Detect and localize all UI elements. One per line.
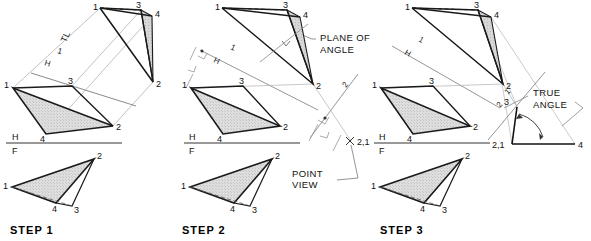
proj-aux-4b: [491, 17, 575, 144]
leader-point-view: [337, 145, 358, 180]
figure-canvas: 1 3 4 2 TL 1 H 1 3 2 4 H F: [0, 0, 591, 241]
front-label-4: 4: [52, 204, 57, 214]
point-view-line1: POINT: [292, 168, 323, 179]
top-label-1: 1: [372, 80, 377, 90]
step2-label: STEP 2: [182, 224, 226, 236]
fold-label-F: F: [379, 146, 385, 156]
plane-of-angle-line2: ANGLE: [320, 44, 354, 55]
top-label-1: 1: [4, 80, 9, 90]
front-label-4: 4: [230, 204, 235, 214]
point-view-line2: VIEW: [292, 179, 318, 190]
step2-front-view: 1 2 3 4: [181, 151, 280, 215]
fold-label-H-aux: H: [43, 58, 51, 68]
step3-hf-fold: H F: [374, 132, 490, 156]
true-angle-label-3: 3: [504, 97, 509, 107]
tick-arrow-b: [186, 74, 193, 88]
step1-hf-fold: H F: [6, 132, 122, 156]
front-label-1: 1: [3, 181, 8, 191]
pv-projector: [313, 84, 351, 141]
aux-label-3: 3: [474, 0, 479, 10]
top-label-2: 2: [473, 122, 478, 132]
step3-auxiliary-view: 1 3 4 2: [405, 0, 511, 91]
fold-label-1: 1: [56, 46, 63, 56]
step1-group: 1 3 4 2 TL 1 H 1 3 2 4 H F: [3, 0, 161, 236]
proj-line-3: [72, 10, 141, 86]
step3-group: 1 3 4 2 1 H 1 2 3 4 2,1 TRUE ANGLE 1 3 2: [371, 0, 583, 236]
perp-tick-a: [198, 53, 207, 59]
step3-front-view: 1 2 3 4: [371, 151, 470, 215]
pv-origin-dot: [323, 116, 326, 119]
plane-of-angle-line1: PLANE OF: [320, 32, 370, 43]
step1-front-view: 1 2 3 4: [3, 151, 102, 215]
true-angle-label-4: 4: [578, 140, 583, 150]
proj-line-1: [13, 8, 100, 88]
fold-label-F: F: [189, 146, 195, 156]
fold-label-1: 1: [229, 43, 237, 53]
fold-origin-dot: [201, 50, 204, 53]
front-label-3: 3: [442, 205, 447, 215]
fold-label-F: F: [12, 146, 18, 156]
aux-label-4: 4: [494, 10, 499, 20]
step1-label: STEP 1: [10, 224, 54, 236]
front-label-3: 3: [252, 205, 257, 215]
fold-label-1: 1: [417, 35, 426, 45]
front-plane-shaded: [190, 159, 272, 203]
aux-label-4: 4: [303, 10, 308, 20]
step1-auxiliary-view: 1 3 4 2: [93, 0, 161, 89]
true-angle-line2: ANGLE: [533, 99, 567, 110]
step1-top-view: 1 3 2 4: [4, 76, 121, 144]
fold-label-H: H: [189, 132, 196, 142]
step2-group: 1 3 4 2 1 H 2 PLANE OF ANGLE POINT VIEW …: [181, 0, 370, 236]
true-length-label: TL: [59, 30, 72, 44]
top-label-3: 3: [239, 76, 244, 86]
front-plane-shaded: [12, 159, 94, 203]
aux-label-1: 1: [93, 2, 98, 12]
true-angle-ray-3: [512, 107, 517, 144]
fold-label-2-pv: 2: [340, 80, 350, 89]
front-label-1: 1: [181, 181, 186, 191]
tick-arrow-d: [333, 135, 341, 151]
fold-label-H: H: [12, 132, 19, 142]
aux-label-3: 3: [283, 0, 288, 10]
descriptive-geometry-drawing: 1 3 4 2 TL 1 H 1 3 2 4 H F: [0, 0, 591, 241]
top-label-3: 3: [68, 76, 73, 86]
true-angle-vertex-label: 2,1: [492, 140, 505, 150]
aux-label-4: 4: [155, 9, 160, 19]
step2-hf-fold: H F: [184, 132, 300, 156]
perp-bracket-a: [188, 66, 196, 72]
top-label-1: 1: [182, 80, 187, 90]
true-angle-line1: TRUE: [533, 87, 560, 98]
aux-label-1: 1: [215, 2, 220, 12]
aux-label-2: 2: [156, 79, 161, 89]
point-view-x-marker: [346, 137, 354, 145]
tick-arrow-a: [190, 47, 196, 60]
point-view-marker-label: 2,1: [357, 137, 370, 147]
top-label-2: 2: [116, 122, 121, 132]
front-label-2: 2: [97, 151, 102, 161]
tick-arrow-c: [309, 124, 318, 141]
front-label-2: 2: [465, 151, 470, 161]
front-label-1: 1: [371, 181, 376, 191]
fold-label-H: H: [379, 132, 386, 142]
front-label-3: 3: [74, 205, 79, 215]
top-label-3: 3: [429, 76, 434, 86]
aux-label-3: 3: [136, 0, 141, 10]
front-label-2: 2: [275, 151, 280, 161]
front-label-4: 4: [420, 204, 425, 214]
aux-label-1: 1: [405, 2, 410, 12]
top-label-2: 2: [283, 122, 288, 132]
proj-line-2: [113, 82, 153, 126]
front-plane-shaded: [380, 159, 462, 203]
perp-bracket-b: [320, 132, 329, 138]
step3-label: STEP 3: [380, 224, 424, 236]
aux-label-2: 2: [316, 81, 321, 91]
